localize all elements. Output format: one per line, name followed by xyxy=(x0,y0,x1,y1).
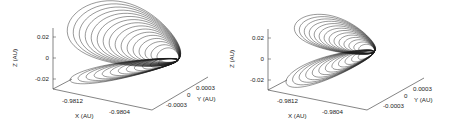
x-tick-label: -0.9812 xyxy=(62,97,84,104)
z-tick-label: 0.02 xyxy=(252,34,265,41)
base-left-edge xyxy=(268,80,287,90)
y-axis-label: Y (AU) xyxy=(197,95,215,102)
x-tick-label: -0.9812 xyxy=(277,97,299,104)
trajectory-loop-upper xyxy=(79,7,180,66)
y-axis-label: Y (AU) xyxy=(414,96,432,103)
trajectory-loop-lower xyxy=(299,50,374,82)
trajectory-curves xyxy=(286,14,376,87)
x-tick-label: -0.9804 xyxy=(322,108,344,115)
plot-panel-right: 0.02 0 -0.02 Z (AU) -0.9812 -0.9804 X (A… xyxy=(224,0,449,125)
z-tick-label: -0.02 xyxy=(35,75,50,82)
y-tick-label: -0.0003 xyxy=(383,102,405,109)
x-tick-label: -0.9804 xyxy=(109,108,131,115)
base-left-edge xyxy=(53,79,72,89)
y-tick-label: 0.0003 xyxy=(413,85,432,92)
z-tick-label: 0 xyxy=(46,54,50,61)
y-tick-label: 0.0003 xyxy=(196,84,215,91)
x-axis-label: X (AU) xyxy=(75,112,94,119)
plot-panel-left: 0.02 0 -0.02 Z (AU) -0.9812 -0.9804 X (A… xyxy=(0,0,225,125)
trajectory-loop-lower xyxy=(293,50,374,85)
z-tick-label: 0 xyxy=(261,55,265,62)
y-tick-label: 0 xyxy=(187,91,191,98)
y-tick-label: 0 xyxy=(404,92,408,99)
z-axis-label: Z (AU) xyxy=(228,50,235,68)
trajectory-loop-lower xyxy=(306,50,374,80)
plot-3d-right: 0.02 0 -0.02 Z (AU) -0.9812 -0.9804 X (A… xyxy=(224,0,449,125)
trajectory-loop-lower xyxy=(78,58,178,82)
plot-3d-left: 0.02 0 -0.02 Z (AU) -0.9812 -0.9804 X (A… xyxy=(0,0,225,125)
z-tick-label: 0.02 xyxy=(37,33,50,40)
z-tick-label: -0.02 xyxy=(250,76,265,83)
y-tick-label: -0.0003 xyxy=(166,101,188,108)
trajectory-curves xyxy=(67,1,180,84)
trajectory-loop-lower xyxy=(286,50,374,88)
z-axis-label: Z (AU) xyxy=(11,49,18,67)
x-axis-label: X (AU) xyxy=(288,112,307,119)
